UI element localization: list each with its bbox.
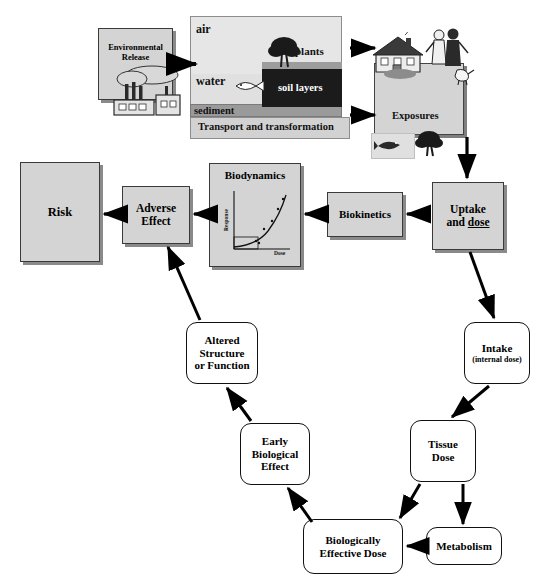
bed-label-1: Biologically xyxy=(320,534,387,547)
tissue-label-1: Tissue xyxy=(428,438,458,451)
metabolism-label: Metabolism xyxy=(436,540,492,553)
people-with-dog-icon xyxy=(424,26,476,86)
arrow-early-effect-to-altered-structure xyxy=(227,388,251,421)
biokinetics-label: Biokinetics xyxy=(339,208,391,221)
metabolism-box[interactable]: Metabolism xyxy=(426,527,502,565)
adverse-effect-label-2: Effect xyxy=(136,215,176,228)
arrow-tissue-dose-to-bed xyxy=(400,484,420,518)
intake-box[interactable]: Intake (internal dose) xyxy=(464,322,530,384)
fish-icon xyxy=(232,78,266,94)
risk-label: Risk xyxy=(48,205,72,219)
biodynamics-xlabel: Dose xyxy=(274,250,286,256)
exposures-label: Exposures xyxy=(392,110,439,121)
bed-label-2: Effective Dose xyxy=(320,547,387,560)
altered-label-1: Altered xyxy=(194,334,249,347)
tissue-dose-box[interactable]: Tissue Dose xyxy=(410,420,476,482)
arrow-intake-to-tissue-dose xyxy=(452,386,489,417)
biodynamics-chart: Response Dose xyxy=(212,183,298,263)
biodynamics-box[interactable]: Biodynamics Response Dose xyxy=(209,163,301,267)
biokinetics-box[interactable]: Biokinetics xyxy=(327,192,403,237)
biologically-effective-dose-box[interactable]: Biologically Effective Dose xyxy=(303,519,403,574)
early-label-2: Biological xyxy=(252,448,298,461)
adverse-effect-box[interactable]: Adverse Effect xyxy=(122,186,190,244)
uptake-label-2: and dose xyxy=(446,216,489,229)
arrow-uptake-to-intake xyxy=(470,252,494,318)
house-icon xyxy=(372,32,432,84)
tree-icon xyxy=(415,128,445,158)
intake-label-2: (internal dose) xyxy=(472,355,522,364)
risk-box[interactable]: Risk xyxy=(20,162,100,262)
uptake-dose-text: dose xyxy=(468,216,490,228)
transport-label: Transport and transformation xyxy=(198,121,334,132)
altered-structure-box[interactable]: Altered Structure or Function xyxy=(186,322,258,384)
intake-label-1: Intake xyxy=(472,342,522,355)
arrow-bed-to-early-biological-effect xyxy=(288,488,312,522)
uptake-and-text: and xyxy=(446,216,467,228)
biodynamics-title: Biodynamics xyxy=(225,169,286,182)
uptake-and-dose-box[interactable]: Uptake and dose xyxy=(432,182,504,250)
arrow-altered-structure-to-adverse-effect xyxy=(168,247,200,320)
altered-label-2: Structure xyxy=(194,347,249,360)
air-label: air xyxy=(196,22,211,37)
factory-smokestack-icon xyxy=(108,62,188,117)
tree-icon xyxy=(268,33,302,73)
biodynamics-ylabel: Response xyxy=(223,208,229,231)
sediment-label: sediment xyxy=(194,105,234,116)
early-label-1: Early xyxy=(252,435,298,448)
altered-label-3: or Function xyxy=(194,359,249,372)
uptake-label-1: Uptake xyxy=(446,203,489,216)
early-biological-effect-box[interactable]: Early Biological Effect xyxy=(240,423,310,485)
soil-layers-label: soil layers xyxy=(278,82,323,93)
fish-icon xyxy=(373,135,411,155)
adverse-effect-label-1: Adverse xyxy=(136,202,176,215)
tissue-label-2: Dose xyxy=(428,451,458,464)
water-label: water xyxy=(196,74,225,89)
diagram-canvas: air water plants soil layers sediment Tr… xyxy=(0,0,549,586)
early-label-3: Effect xyxy=(252,460,298,473)
environment-panel: air water plants soil layers sediment Tr… xyxy=(190,16,350,136)
